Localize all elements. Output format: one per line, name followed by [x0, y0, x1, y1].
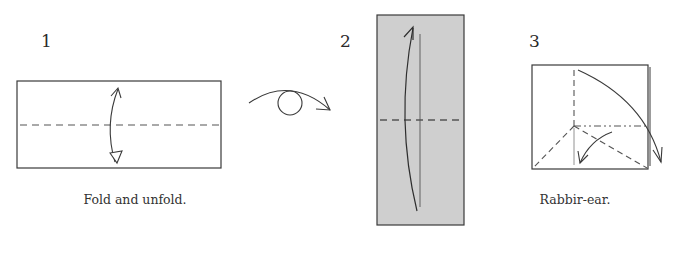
step-number-3: 3 — [529, 31, 540, 51]
step-number-2: 2 — [340, 31, 351, 51]
step-3-caption: Rabbir-ear. — [540, 192, 611, 207]
turn-over-icon — [249, 91, 330, 115]
step-1-caption: Fold and unfold. — [83, 192, 186, 207]
step-1-diagram — [17, 81, 221, 168]
step-number-1: 1 — [41, 31, 52, 51]
step-3-paper — [532, 65, 648, 169]
step-2-diagram — [377, 15, 464, 225]
step-3-diagram — [532, 65, 662, 169]
